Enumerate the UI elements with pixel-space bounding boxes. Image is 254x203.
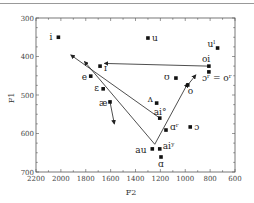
glide-arrow — [110, 102, 114, 124]
data-point-label: ɑ — [158, 159, 164, 169]
data-point-marker — [207, 64, 211, 68]
data-point-marker — [89, 74, 93, 78]
data-point-label: ai° — [154, 107, 167, 117]
data-point-marker — [188, 125, 192, 129]
data-point-marker — [150, 147, 154, 151]
data-point-marker — [108, 100, 112, 104]
data-point-label: ʊ — [164, 72, 170, 82]
data-point-label: ɪ — [104, 63, 107, 73]
data-point-marker — [174, 76, 178, 80]
y-axis-label: F1 — [7, 93, 16, 104]
data-point-label: oi — [202, 54, 210, 64]
y-tick-label: 300 — [21, 15, 34, 23]
data-point-label: u — [152, 33, 158, 43]
y-tick-label: 400 — [21, 53, 34, 61]
data-point-label: ɔ — [194, 122, 199, 132]
data-point-label: ɑʳ — [170, 122, 179, 132]
x-tick-label: 2000 — [52, 175, 70, 183]
data-point-marker — [57, 35, 61, 39]
x-tick-label: 1000 — [176, 175, 194, 183]
data-point-marker — [146, 36, 150, 40]
y-tick-label: 500 — [21, 92, 34, 100]
x-tick-label: 600 — [228, 175, 241, 183]
glide-arrow — [85, 62, 155, 145]
glide-arrows — [71, 55, 209, 144]
data-point-label: ʌ — [147, 94, 154, 104]
data-point-marker — [216, 46, 220, 50]
x-axis-label: F2 — [126, 188, 137, 197]
data-point-marker — [98, 64, 102, 68]
data-point-label: i — [49, 32, 52, 42]
data-point-label: ɛ — [94, 83, 99, 93]
data-point-label: ɔʳ = oʳ — [202, 73, 232, 83]
data-point-label: o — [188, 86, 193, 96]
y-tick-label: 700 — [21, 169, 34, 177]
data-point-marker — [155, 101, 159, 105]
x-tick-label: 1400 — [127, 175, 145, 183]
x-tick-label: 1600 — [102, 175, 120, 183]
x-tick-label: 1800 — [77, 175, 95, 183]
data-point-label: aiʸ — [163, 141, 175, 151]
x-tick-label: 1200 — [151, 175, 169, 183]
data-point-marker — [158, 147, 162, 151]
data-point-label: e — [82, 72, 87, 82]
data-point-label: æ — [99, 98, 107, 108]
y-tick-label: 600 — [21, 130, 34, 138]
x-tick-label: 800 — [203, 175, 216, 183]
vowel-formant-chart: 2200200018001600140012001000800600300400… — [0, 0, 254, 203]
glide-arrow — [104, 63, 208, 66]
data-point-marker — [101, 87, 105, 91]
data-point-label: au — [135, 145, 146, 155]
data-point-marker — [164, 128, 168, 132]
data-point-label: uˡ — [208, 39, 216, 49]
data-points: iuuˡoiɔʳ = oʳʊoɪeɛæʌai°ɑʳɔauaiʸɑ — [49, 32, 231, 169]
